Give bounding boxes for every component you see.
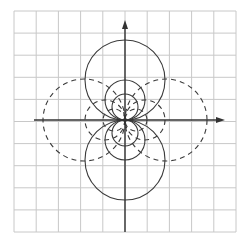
y-axis-arrow-icon	[122, 20, 128, 29]
origin-point	[123, 118, 127, 122]
x-axis-arrow-icon	[216, 117, 225, 123]
dipole-field-diagram	[0, 0, 252, 244]
